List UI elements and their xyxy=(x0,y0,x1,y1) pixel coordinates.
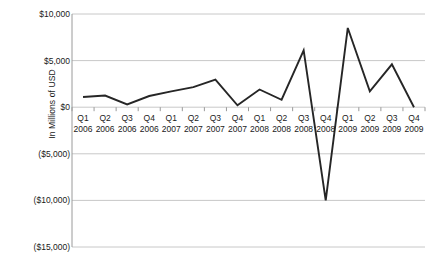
line-chart: In Millions of USD $10,000$5,000$0($5,00… xyxy=(0,0,440,267)
x-axis-tick-labels: Q12006Q22006Q32006Q42006Q12007Q22007Q320… xyxy=(0,0,440,267)
x-axis-tick-label: Q42009 xyxy=(399,113,429,135)
x-tick-quarter: Q4 xyxy=(399,113,429,124)
x-tick-year: 2009 xyxy=(399,124,429,135)
